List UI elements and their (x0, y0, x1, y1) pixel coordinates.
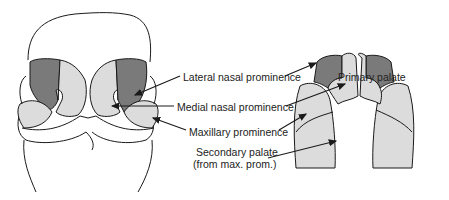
palate-left-shelf (294, 83, 335, 168)
medial-nasal-left (56, 60, 86, 116)
label-primary-palate: Primary palate (338, 71, 406, 83)
label-maxillary: Maxillary prominence (189, 126, 288, 138)
label-secondary-palate-1: Secondary palate (196, 146, 278, 158)
label-secondary-palate-2: (from max. prom.) (193, 158, 276, 170)
label-lateral-nasal: Lateral nasal prominence (183, 71, 301, 83)
medial-nasal-right (90, 60, 120, 116)
label-medial-nasal: Medial nasal prominence (177, 101, 294, 113)
frontal-face-view (18, 13, 158, 192)
diagram-canvas (0, 0, 449, 200)
